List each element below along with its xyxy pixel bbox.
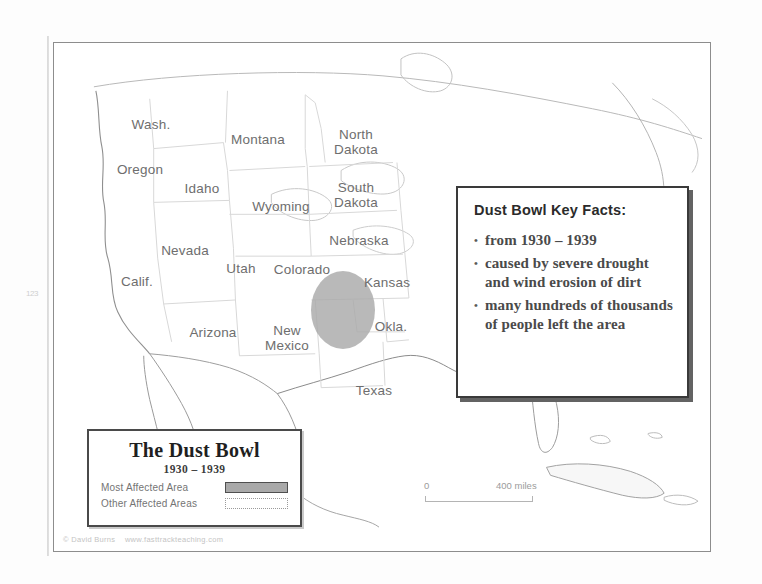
state-label-wash: Wash.: [132, 118, 171, 133]
legend-entries: Most Affected AreaOther Affected Areas: [101, 482, 288, 509]
key-fact-text: many hundreds of thousands of people lef…: [485, 296, 673, 334]
state-label-colorado: Colorado: [274, 263, 330, 278]
state-label-wyoming: Wyoming: [252, 200, 310, 215]
legend-entry: Other Affected Areas: [101, 498, 288, 509]
legend-swatch-solid-gray: [225, 482, 288, 493]
state-label-nevada: Nevada: [161, 244, 209, 259]
state-label-oregon: Oregon: [117, 163, 163, 178]
state-label-montana: Montana: [231, 133, 285, 148]
state-label-south-dakota: South Dakota: [334, 181, 378, 210]
scale-label-zero: 0: [424, 480, 429, 491]
state-label-texas: Texas: [356, 384, 392, 399]
bullet-icon: •: [474, 254, 485, 273]
key-fact-item: •caused by severe drought and wind erosi…: [474, 254, 673, 292]
state-label-arizona: Arizona: [189, 326, 236, 341]
scan-margin-mark: 123: [26, 286, 38, 302]
key-fact-text: from 1930 – 1939: [485, 231, 673, 250]
legend-title: The Dust Bowl: [101, 439, 288, 462]
state-label-kansas: Kansas: [364, 276, 410, 291]
key-facts-box: Dust Bowl Key Facts: •from 1930 – 1939•c…: [456, 186, 689, 398]
copyright-notice: © David Burns www.fasttrackteaching.com: [63, 535, 223, 544]
map-legend-box: The Dust Bowl 1930 – 1939 Most Affected …: [87, 429, 302, 527]
scale-labels: 0 400 miles: [424, 480, 564, 492]
state-label-utah: Utah: [226, 262, 255, 277]
scale-bracket-line: [425, 496, 533, 502]
state-label-new-mexico: New Mexico: [265, 324, 309, 353]
key-fact-item: •many hundreds of thousands of people le…: [474, 296, 673, 334]
bullet-icon: •: [474, 296, 485, 315]
bullet-icon: •: [474, 231, 485, 250]
scale-label-max: 400 miles: [496, 480, 537, 491]
key-fact-item: •from 1930 – 1939: [474, 231, 673, 250]
legend-entry-label: Other Affected Areas: [101, 498, 197, 509]
key-fact-text: caused by severe drought and wind erosio…: [485, 254, 673, 292]
key-facts-list: •from 1930 – 1939•caused by severe droug…: [474, 231, 673, 334]
map-frame: Wash.MontanaNorth DakotaOregonIdahoSouth…: [53, 42, 711, 552]
legend-swatch-white-dotted: [225, 498, 288, 509]
state-label-calif: Calif.: [121, 275, 153, 290]
map-scale-bar: 0 400 miles: [424, 480, 564, 506]
state-label-north-dakota: North Dakota: [334, 128, 378, 157]
state-label-idaho: Idaho: [185, 182, 220, 197]
state-label-okla: Okla.: [375, 320, 408, 335]
key-facts-title: Dust Bowl Key Facts:: [474, 202, 673, 218]
scan-edge-artifact: [47, 36, 49, 556]
legend-entry: Most Affected Area: [101, 482, 288, 493]
legend-entry-label: Most Affected Area: [101, 482, 188, 493]
legend-years: 1930 – 1939: [101, 463, 288, 475]
page-background: 123: [0, 0, 762, 584]
state-label-nebraska: Nebraska: [329, 234, 388, 249]
